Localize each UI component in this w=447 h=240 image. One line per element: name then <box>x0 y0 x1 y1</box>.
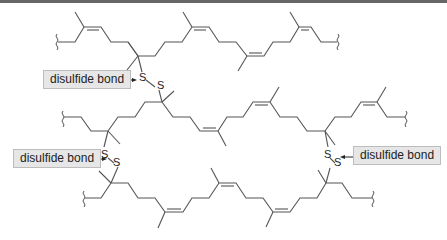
wavy-end-icon <box>56 34 58 50</box>
bottom-chain <box>83 167 374 228</box>
sulfur-atom: S <box>157 79 164 91</box>
wavy-end-icon <box>372 191 374 207</box>
polymer-structure: S S S S S S <box>0 0 447 240</box>
wavy-end-icon <box>337 34 339 50</box>
disulfide-bond-label-middle-right: disulfide bond <box>353 146 441 165</box>
wavy-end-icon <box>62 111 64 127</box>
disulfide-bond-label-middle-left: disulfide bond <box>13 149 101 168</box>
sulfur-atom: S <box>113 156 120 168</box>
sulfur-atom: S <box>334 156 341 168</box>
disulfide-bond-label-top-left: disulfide bond <box>43 70 131 89</box>
top-chain <box>56 12 339 71</box>
wavy-end-icon <box>405 111 407 127</box>
wavy-end-icon <box>83 191 85 207</box>
sulfur-atom: S <box>139 71 146 83</box>
